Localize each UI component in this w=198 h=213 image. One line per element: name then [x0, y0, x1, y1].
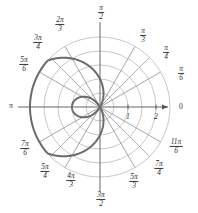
- angle-label-two-pi-over-3-denominator: 3: [55, 25, 64, 33]
- angle-label-pi: π: [9, 102, 13, 110]
- angle-label-pi-over-6: π 6: [178, 65, 184, 81]
- angle-label-five-pi-over-4: 5π 4: [40, 163, 49, 179]
- angle-label-five-pi-over-4-denominator: 4: [40, 172, 49, 180]
- angle-label-seven-pi-over-6-denominator: 6: [20, 149, 29, 157]
- angle-label-five-pi-over-3-denominator: 3: [129, 182, 138, 190]
- angle-label-four-pi-over-3: 4π 3: [66, 172, 75, 188]
- angle-label-five-pi-over-6: 5π 6: [19, 56, 28, 72]
- angle-label-seven-pi-over-4: 7π 4: [154, 160, 163, 176]
- polar-plot-canvas: [0, 0, 198, 213]
- angle-label-pi-over-4-denominator: 4: [163, 53, 169, 61]
- angle-label-five-pi-over-3: 5π 3: [129, 173, 138, 189]
- axis-arrowhead-icon: [162, 104, 168, 109]
- angle-label-eleven-pi-over-6: 11π 6: [170, 138, 183, 154]
- radial-tick-label-1: 1: [126, 113, 130, 121]
- angle-label-pi-over-2: π 2: [98, 4, 104, 20]
- angle-label-four-pi-over-3-denominator: 3: [66, 181, 75, 189]
- angle-label-pi-over-6-denominator: 6: [178, 74, 184, 82]
- polar-plot-figure: 1 2 0 π π 6 π 4 π 3 π 2 2π 3: [0, 0, 198, 213]
- angle-label-three-pi-over-2-denominator: 2: [96, 200, 105, 208]
- radial-tick-label-2: 2: [154, 113, 158, 121]
- angle-label-pi-over-3: π 3: [140, 27, 146, 43]
- angle-label-eleven-pi-over-6-denominator: 6: [170, 147, 183, 155]
- angle-label-three-pi-over-4-denominator: 4: [33, 43, 42, 51]
- angle-label-pi-over-4: π 4: [163, 44, 169, 60]
- angle-label-two-pi-over-3: 2π 3: [55, 16, 64, 32]
- angle-label-zero: 0: [179, 103, 183, 111]
- angle-label-seven-pi-over-6: 7π 6: [20, 140, 29, 156]
- angle-label-pi-over-2-denominator: 2: [98, 13, 104, 21]
- angle-label-seven-pi-over-4-denominator: 4: [154, 169, 163, 177]
- angle-label-five-pi-over-6-denominator: 6: [19, 65, 28, 73]
- angle-label-pi-over-3-denominator: 3: [140, 36, 146, 44]
- angle-label-three-pi-over-4: 3π 4: [33, 34, 42, 50]
- angle-label-three-pi-over-2: 3π 2: [96, 191, 105, 207]
